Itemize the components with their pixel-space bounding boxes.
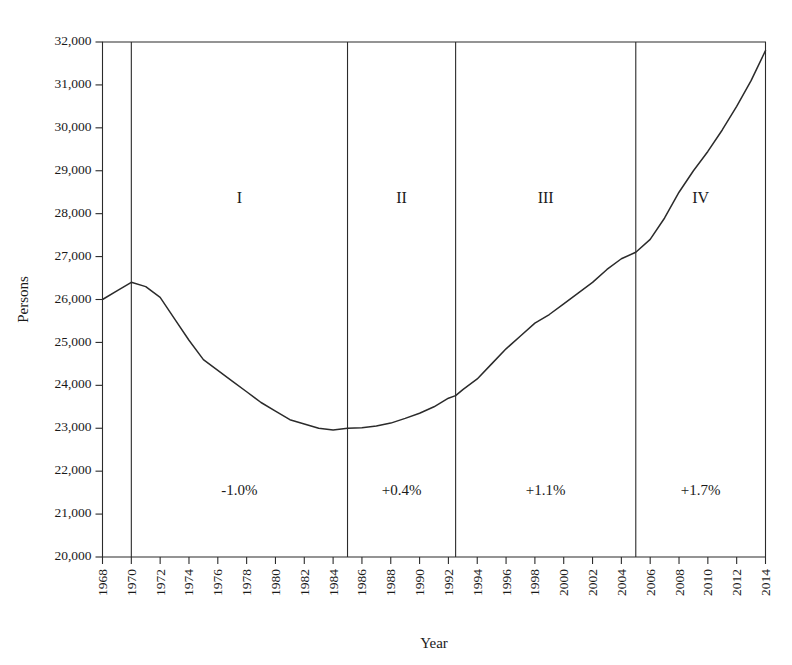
period-roman-numeral-1: I	[237, 189, 242, 206]
x-tick-label: 2000	[556, 569, 571, 596]
data-series-line	[103, 51, 766, 430]
plot-frame	[103, 42, 766, 557]
y-axis-title: Persons	[15, 276, 31, 323]
y-tick-label: 27,000	[54, 248, 91, 263]
y-axis-tick-labels: 20,00021,00022,00023,00024,00025,00026,0…	[54, 33, 91, 563]
period-roman-numeral-4: IV	[692, 189, 709, 206]
x-tick-label: 1982	[297, 569, 312, 596]
y-tick-label: 25,000	[54, 334, 91, 349]
x-axis-title: Year	[420, 635, 448, 651]
period-growth-rate-3: +1.1%	[526, 482, 566, 498]
x-axis-ticks	[103, 557, 766, 564]
x-tick-label: 2006	[643, 569, 658, 596]
x-tick-label: 1968	[95, 569, 110, 596]
y-tick-label: 22,000	[54, 462, 91, 477]
y-tick-label: 21,000	[54, 505, 91, 520]
period-divider-lines	[131, 42, 635, 557]
period-roman-numeral-3: III	[538, 189, 554, 206]
period-growth-rate-4: +1.7%	[681, 482, 721, 498]
x-tick-label: 2004	[614, 569, 629, 596]
period-growth-rate-2: +0.4%	[382, 482, 422, 498]
y-tick-label: 23,000	[54, 419, 91, 434]
period-growth-rate-1: -1.0%	[221, 482, 257, 498]
y-tick-label: 24,000	[54, 376, 91, 391]
y-axis-ticks	[96, 42, 103, 557]
x-tick-label: 2002	[585, 569, 600, 596]
x-tick-label: 1986	[354, 569, 369, 596]
y-tick-label: 20,000	[54, 548, 91, 563]
x-tick-label: 1984	[326, 569, 341, 596]
y-tick-label: 26,000	[54, 291, 91, 306]
x-tick-label: 1976	[210, 569, 225, 596]
x-tick-label: 1978	[239, 569, 254, 596]
period-annotations: I-1.0%II+0.4%III+1.1%IV+1.7%	[221, 189, 720, 498]
x-tick-label: 1972	[153, 569, 168, 596]
x-tick-label: 1980	[268, 569, 283, 596]
x-axis-tick-labels: 1968197019721974197619781980198219841986…	[95, 569, 773, 596]
y-tick-label: 32,000	[54, 33, 91, 48]
line-chart-figure: 20,00021,00022,00023,00024,00025,00026,0…	[0, 0, 792, 665]
x-tick-label: 1992	[441, 569, 456, 596]
x-tick-label: 2014	[758, 569, 773, 596]
x-tick-label: 1994	[470, 569, 485, 596]
x-tick-label: 1996	[499, 569, 514, 596]
y-tick-label: 30,000	[54, 119, 91, 134]
x-tick-label: 2008	[672, 569, 687, 596]
series-path-persons	[103, 51, 766, 430]
y-tick-label: 29,000	[54, 162, 91, 177]
x-tick-label: 1974	[181, 569, 196, 596]
x-tick-label: 1988	[383, 569, 398, 596]
chart-canvas: 20,00021,00022,00023,00024,00025,00026,0…	[0, 0, 792, 665]
period-roman-numeral-2: II	[396, 189, 407, 206]
y-tick-label: 28,000	[54, 205, 91, 220]
x-tick-label: 1990	[412, 569, 427, 596]
x-tick-label: 2010	[700, 569, 715, 596]
x-tick-label: 2012	[729, 569, 744, 596]
x-tick-label: 1998	[527, 569, 542, 596]
plot-border	[103, 42, 766, 557]
x-tick-label: 1970	[124, 569, 139, 596]
y-tick-label: 31,000	[54, 76, 91, 91]
